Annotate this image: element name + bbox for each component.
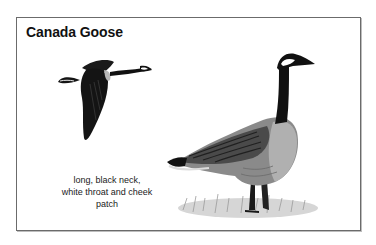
flying-goose-illustration bbox=[52, 54, 152, 146]
caption-line: patch bbox=[47, 198, 167, 210]
caption-line: long, black neck, bbox=[47, 174, 167, 186]
caption-line: white throat and cheek bbox=[47, 186, 167, 198]
species-caption: long, black neck, white throat and cheek… bbox=[47, 174, 167, 210]
species-card: Canada Goose bbox=[16, 17, 361, 231]
species-title: Canada Goose bbox=[26, 24, 123, 40]
standing-goose-illustration bbox=[163, 48, 333, 228]
